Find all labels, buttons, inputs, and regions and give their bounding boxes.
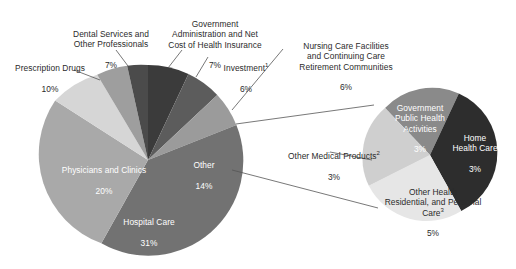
label-dental-title: Dental Services and Other Professionals <box>52 29 170 49</box>
label-nursing-pct: 6% <box>284 82 408 92</box>
label-physicians-pct: 20% <box>48 186 160 196</box>
label-prescription-drugs: Prescription Drugs 10% <box>2 53 98 104</box>
label-home-health-care: Home Health Care 3% <box>444 123 506 184</box>
label-physicians-clinics: Physicians and Clinics 20% <box>48 155 160 206</box>
label-prescription-title: Prescription Drugs <box>2 63 98 73</box>
label-physicians-title: Physicians and Clinics <box>48 165 160 175</box>
label-other-health-footnote: 3 <box>440 207 443 213</box>
label-hospital-title: Hospital Care <box>104 217 194 227</box>
label-home-health-title: Home Health Care <box>444 133 506 153</box>
label-other-title: Other <box>177 160 231 170</box>
label-hospital-pct: 31% <box>104 238 194 248</box>
label-nursing-care: Nursing Care Facilities and Continuing C… <box>284 31 408 102</box>
label-other-health-title: Other Health Residential, and Personal C… <box>385 187 482 217</box>
label-other-health-residential: Other Health Residential, and Personal C… <box>369 177 497 248</box>
label-other: Other 14% <box>177 150 231 201</box>
chart-canvas: Dental Services and Other Professionals … <box>0 0 516 269</box>
label-home-health-pct: 3% <box>444 164 506 174</box>
label-investment-pct: 6% <box>215 84 277 94</box>
label-other-medical-title: Other Medical Products <box>288 151 377 161</box>
label-government-admin-title: Government Administration and Net Cost o… <box>154 19 276 50</box>
label-other-health-pct: 5% <box>369 228 497 238</box>
label-hospital-care: Hospital Care 31% <box>104 207 194 258</box>
callout-line-top <box>236 105 374 124</box>
label-prescription-pct: 10% <box>2 84 98 94</box>
label-investment-footnote: 1 <box>265 62 268 68</box>
label-investment-title: Investment <box>224 63 265 73</box>
label-other-pct: 14% <box>177 181 231 191</box>
label-other-medical-pct: 3% <box>282 172 386 182</box>
label-other-medical-products: Other Medical Products2 3% <box>282 141 386 192</box>
label-investment: Investment1 6% <box>215 53 277 104</box>
label-nursing-title: Nursing Care Facilities and Continuing C… <box>284 41 408 72</box>
label-other-medical-footnote: 2 <box>377 150 380 156</box>
